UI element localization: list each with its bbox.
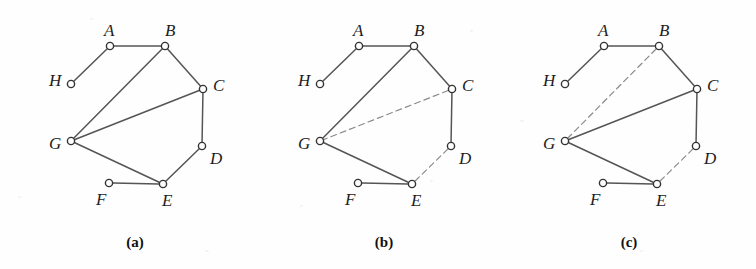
vertex-F <box>354 179 361 186</box>
vertex-label-E: E <box>162 192 172 209</box>
edge-C-D-solid <box>696 93 697 142</box>
panel-caption-c: (c) <box>599 234 659 251</box>
vertex-C <box>693 85 700 92</box>
edge-D-E-solid <box>166 149 199 181</box>
edge-A-H-solid <box>323 49 356 81</box>
vertex-label-D: D <box>459 150 471 167</box>
vertex-F <box>599 179 606 186</box>
vertex-label-E: E <box>656 192 666 209</box>
graph-panel-a: ABCDEFGH(a) <box>0 0 252 269</box>
vertex-label-B: B <box>414 22 424 39</box>
edge-B-C-solid <box>168 49 200 86</box>
vertex-label-F: F <box>345 191 355 208</box>
vertex-label-E: E <box>411 192 421 209</box>
vertex-label-C: C <box>462 77 473 94</box>
vertex-C <box>448 85 455 92</box>
vertex-B <box>410 42 417 49</box>
vertex-B <box>161 42 168 49</box>
edge-E-F-solid <box>362 183 408 184</box>
edge-B-G-solid <box>323 49 411 138</box>
graph-panel-b: ABCDEFGH(b) <box>249 0 501 269</box>
vertex-label-G: G <box>543 135 555 152</box>
graph-canvas-c <box>494 0 746 269</box>
edge-C-D-solid <box>451 93 452 142</box>
vertex-label-H: H <box>49 72 61 89</box>
vertex-H <box>67 80 74 87</box>
vertex-H <box>316 80 323 87</box>
vertex-C <box>199 85 206 92</box>
edge-A-H-solid <box>568 49 601 81</box>
vertex-label-D: D <box>210 150 222 167</box>
vertex-E <box>408 180 415 187</box>
vertex-label-C: C <box>213 77 224 94</box>
vertex-B <box>655 42 662 49</box>
vertex-label-F: F <box>590 191 600 208</box>
graph-panel-c: ABCDEFGH(c) <box>494 0 746 269</box>
edge-E-G-solid <box>324 143 408 182</box>
figure-root: ABCDEFGH(a)ABCDEFGH(b)ABCDEFGH(c) <box>0 0 756 269</box>
edge-D-E-dashed <box>660 149 693 181</box>
edge-E-G-solid <box>75 143 159 182</box>
vertex-E <box>653 180 660 187</box>
edge-C-G-solid <box>569 91 693 140</box>
vertex-group <box>316 42 455 187</box>
vertex-label-G: G <box>49 135 61 152</box>
edge-E-F-solid <box>607 183 653 184</box>
vertex-D <box>692 142 699 149</box>
vertex-label-A: A <box>353 22 363 39</box>
graph-canvas-a <box>0 0 252 269</box>
panel-caption-a: (a) <box>105 234 165 251</box>
edge-group <box>568 46 697 184</box>
vertex-label-A: A <box>598 22 608 39</box>
graph-canvas-b <box>249 0 501 269</box>
vertex-A <box>600 42 607 49</box>
edge-B-C-solid <box>662 49 694 86</box>
vertex-label-B: B <box>165 22 175 39</box>
edge-B-G-dashed <box>568 49 656 138</box>
vertex-label-G: G <box>298 135 310 152</box>
vertex-label-H: H <box>543 72 555 89</box>
vertex-label-C: C <box>707 77 718 94</box>
edge-C-G-dashed <box>324 91 448 140</box>
vertex-D <box>447 142 454 149</box>
vertex-label-F: F <box>96 191 106 208</box>
vertex-G <box>561 137 568 144</box>
edge-E-G-solid <box>569 143 653 182</box>
vertex-label-D: D <box>704 150 716 167</box>
vertex-H <box>561 80 568 87</box>
edge-B-G-solid <box>74 49 162 138</box>
edge-group <box>74 46 203 184</box>
vertex-F <box>105 179 112 186</box>
vertex-E <box>159 180 166 187</box>
vertex-G <box>67 137 74 144</box>
edge-C-G-solid <box>75 91 199 140</box>
edge-C-D-solid <box>202 93 203 142</box>
panel-caption-b: (b) <box>354 234 414 251</box>
vertex-G <box>316 137 323 144</box>
vertex-label-B: B <box>659 22 669 39</box>
vertex-A <box>355 42 362 49</box>
edge-group <box>323 46 452 184</box>
edge-B-C-solid <box>417 49 449 86</box>
vertex-D <box>198 142 205 149</box>
vertex-label-H: H <box>298 72 310 89</box>
edge-A-H-solid <box>74 49 107 81</box>
vertex-A <box>106 42 113 49</box>
vertex-label-A: A <box>104 22 114 39</box>
edge-E-F-solid <box>113 183 159 184</box>
edge-D-E-dashed <box>415 149 448 181</box>
